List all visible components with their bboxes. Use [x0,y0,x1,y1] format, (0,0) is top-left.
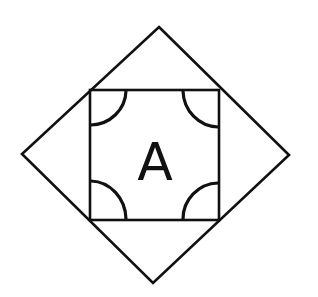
region-label: A [137,132,173,192]
arc-bottom-right [183,183,218,219]
arc-top-left [91,91,126,125]
arc-top-right [183,91,218,127]
arc-bottom-left [91,181,126,219]
diagram-canvas: A [0,0,318,297]
